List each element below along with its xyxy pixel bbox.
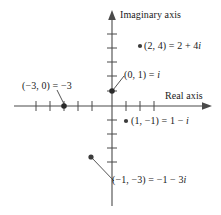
point-marker-m1-m3 <box>88 154 93 159</box>
leader-line-point-0-1 <box>113 76 124 90</box>
imaginary-unit-glyph: i <box>186 115 189 126</box>
point-label-m3-0: (−3, 0) = −3 <box>22 80 72 91</box>
point-label-0-1-text: (0, 1) = <box>124 69 157 80</box>
imaginary-unit-glyph: i <box>198 40 201 51</box>
point-label-2-4: (2, 4) = 2 + 4i <box>144 40 201 51</box>
complex-plane-figure: Imaginary axis Real axis (2, 4) = 2 + 4i… <box>0 0 221 215</box>
point-label-0-1: (0, 1) = i <box>124 69 160 80</box>
point-marker-1-m1 <box>124 119 128 123</box>
imaginary-axis-label: Imaginary axis <box>120 9 181 20</box>
point-marker-2-4 <box>138 44 142 48</box>
point-label-m1-m3: (−1, −3) = −1 − 3i <box>112 174 186 185</box>
point-marker-0-1 <box>109 88 115 94</box>
coordinate-axes-graphic <box>0 0 221 215</box>
imaginary-unit-glyph: i <box>184 174 187 185</box>
point-label-1-m1-text: (1, −1) = 1 − <box>131 115 186 126</box>
imaginary-axis-arrowhead <box>108 10 116 20</box>
real-axis-arrowhead <box>202 102 212 110</box>
point-label-1-m1: (1, −1) = 1 − i <box>131 115 189 126</box>
imaginary-unit-glyph: i <box>157 69 160 80</box>
point-label-2-4-text: (2, 4) = 2 + 4 <box>144 40 198 51</box>
point-label-m1-m3-text: (−1, −3) = −1 − 3 <box>112 174 184 185</box>
leader-line-point-m1-m3 <box>92 158 114 181</box>
leader-line-point-m3-0 <box>57 90 64 104</box>
real-axis-label: Real axis <box>165 90 203 101</box>
point-marker-m3-0 <box>61 103 67 109</box>
